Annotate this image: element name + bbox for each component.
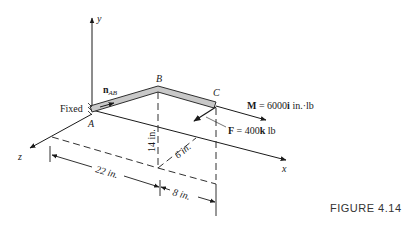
force-label: F = 400k lb <box>228 125 276 136</box>
dimension-lines <box>50 146 216 216</box>
dim-height-label: 14 in. <box>146 129 157 152</box>
point-c-label: C <box>213 87 220 98</box>
dim-depth-label: 6 in. <box>172 141 193 161</box>
point-a-label: A <box>87 118 95 129</box>
x-axis: x <box>92 110 287 174</box>
moment-label: M = 6000i in.·lb <box>247 100 314 111</box>
unit-vector-label: nAB <box>103 84 118 97</box>
dim-length-bc-label: 8 in. <box>171 186 191 201</box>
z-axis-label: z <box>17 151 22 162</box>
fixed-label: Fixed <box>60 103 83 114</box>
x-axis-label: x <box>281 163 287 174</box>
y-axis-label: y <box>96 13 102 24</box>
force-arrow <box>194 107 216 121</box>
dim-length-ab-label: 22 in. <box>94 163 119 180</box>
y-axis: y <box>92 13 102 110</box>
figure-caption: FIGURE 4.14 <box>330 202 402 214</box>
point-b-label: B <box>156 73 162 84</box>
